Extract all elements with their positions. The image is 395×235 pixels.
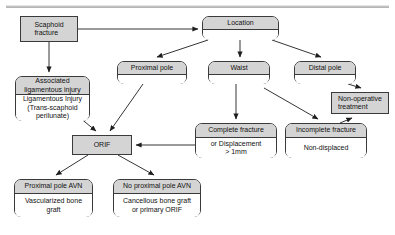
node-label: Associated ligamentous injury — [22, 77, 82, 94]
node-body — [118, 75, 186, 84]
node-body-label: Vascularized bone graft — [23, 197, 84, 214]
node-header: Waist — [209, 62, 269, 75]
node-label: Proximal pole AVN — [23, 182, 85, 191]
node-header: Proximal pole AVN — [15, 180, 92, 194]
node-location[interactable]: Location — [202, 16, 279, 40]
node-body — [209, 75, 269, 84]
node-label: Location — [225, 19, 255, 28]
node-proximal-pole[interactable]: Proximal pole — [117, 61, 187, 84]
node-header: Location — [203, 17, 278, 30]
node-body: Non-displaced — [286, 138, 366, 158]
edge-proximal-pole-to-orif — [110, 84, 143, 131]
node-incomplete-fracture[interactable]: Incomplete fracture Non-displaced — [285, 123, 367, 158]
edge-location-to-distal-pole — [272, 40, 321, 57]
node-waist[interactable]: Waist — [208, 61, 270, 84]
edge-orif-to-no-proximal-pole-avn — [118, 155, 154, 175]
node-header: Distal pole — [295, 62, 355, 75]
node-body-label: or Displacement > 1mm — [209, 140, 264, 157]
node-header: Complete fracture — [196, 124, 276, 138]
node-label: ORIF — [92, 141, 113, 150]
node-body — [203, 30, 278, 40]
node-complete-fracture[interactable]: Complete fracture or Displacement > 1mm — [195, 123, 277, 158]
node-header: Incomplete fracture — [286, 124, 366, 138]
node-orif[interactable]: ORIF — [72, 135, 132, 155]
edge-distal-pole-to-non-operative — [348, 84, 361, 88]
edge-waist-to-incomplete-fracture — [264, 88, 318, 119]
node-label: Complete fracture — [206, 126, 266, 135]
node-body-label: Ligamentous Injury (Trans-scaphoid peril… — [21, 95, 84, 121]
node-scaphoid-fracture[interactable]: Scaphoid fracture — [20, 16, 78, 42]
node-label: Distal pole — [307, 64, 344, 73]
node-proximal-pole-avn[interactable]: Proximal pole AVN Vascularized bone graf… — [14, 179, 93, 217]
node-body-label: Cancellous bone graft or primary ORIF — [121, 197, 193, 214]
node-distal-pole[interactable]: Distal pole — [294, 61, 356, 84]
node-label: No proximal pole AVN — [121, 182, 193, 191]
node-body: or Displacement > 1mm — [196, 138, 276, 158]
node-body: Vascularized bone graft — [15, 194, 92, 217]
top-divider-rule — [6, 5, 389, 8]
node-label: Proximal pole — [129, 64, 175, 73]
node-body: Cancellous bone graft or primary ORIF — [114, 194, 200, 217]
node-non-operative-treatment[interactable]: Non-operative treatment — [331, 92, 389, 114]
node-header: Proximal pole — [118, 62, 186, 75]
node-body — [295, 75, 355, 84]
node-header: No proximal pole AVN — [114, 180, 200, 194]
edge-orif-to-proximal-pole-avn — [56, 155, 88, 175]
node-header: Associated ligamentous injury — [16, 77, 89, 95]
node-label: Scaphoid fracture — [32, 21, 65, 38]
node-no-proximal-pole-avn[interactable]: No proximal pole AVN Cancellous bone gra… — [113, 179, 201, 217]
node-label: Incomplete fracture — [294, 126, 358, 135]
node-label: Waist — [228, 64, 249, 73]
edge-location-to-proximal-pole — [157, 40, 208, 57]
node-label: Non-operative treatment — [336, 95, 384, 112]
node-body-label: Non-displaced — [302, 144, 351, 153]
node-body: Ligamentous Injury (Trans-scaphoid peril… — [16, 95, 89, 121]
node-associated-ligamentous-injury[interactable]: Associated ligamentous injury Ligamentou… — [15, 76, 90, 121]
flowchart-canvas: Scaphoid fracture Location Proximal pole… — [0, 0, 395, 235]
